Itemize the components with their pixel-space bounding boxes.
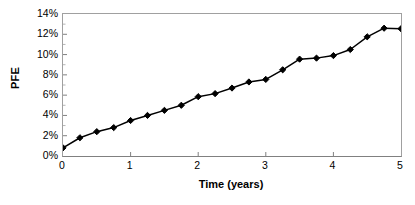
data-point-marker bbox=[263, 76, 269, 82]
y-tick-label: 4% bbox=[30, 108, 58, 120]
y-tick-label: 12% bbox=[30, 27, 58, 39]
data-point-marker bbox=[178, 102, 184, 108]
data-point-marker bbox=[330, 52, 336, 58]
tick-marks bbox=[63, 24, 333, 156]
y-axis-title-label: PFE bbox=[9, 67, 21, 89]
x-axis-title: Time (years) bbox=[62, 178, 400, 190]
data-point-marker bbox=[381, 25, 387, 31]
data-point-marker bbox=[94, 129, 100, 135]
x-tick-label: 3 bbox=[262, 159, 268, 171]
plot-area bbox=[62, 13, 402, 157]
y-tick-label: 10% bbox=[30, 48, 58, 60]
data-point-marker bbox=[195, 94, 201, 100]
chart-container: PFE 0%2%4%6%8%10%12%14% 012345 Time (yea… bbox=[0, 0, 415, 205]
data-point-marker bbox=[161, 107, 167, 113]
x-tick-label: 1 bbox=[127, 159, 133, 171]
y-tick-label: 2% bbox=[30, 129, 58, 141]
data-point-marker bbox=[128, 117, 134, 123]
x-tick-label: 4 bbox=[329, 159, 335, 171]
x-tick-label: 5 bbox=[397, 159, 403, 171]
y-tick-label: 6% bbox=[30, 88, 58, 100]
x-tick-label: 2 bbox=[194, 159, 200, 171]
data-point-marker bbox=[229, 85, 235, 91]
plot-svg bbox=[63, 14, 401, 156]
data-point-marker bbox=[212, 91, 218, 97]
data-point-marker bbox=[313, 55, 319, 61]
data-markers bbox=[63, 25, 401, 151]
data-point-marker bbox=[246, 79, 252, 85]
y-tick-label: 14% bbox=[30, 7, 58, 19]
data-point-marker bbox=[144, 112, 150, 118]
x-axis-tick-labels: 012345 bbox=[0, 159, 415, 175]
data-point-marker bbox=[398, 26, 401, 32]
data-point-marker bbox=[111, 125, 117, 131]
y-tick-label: 8% bbox=[30, 68, 58, 80]
x-tick-label: 0 bbox=[59, 159, 65, 171]
